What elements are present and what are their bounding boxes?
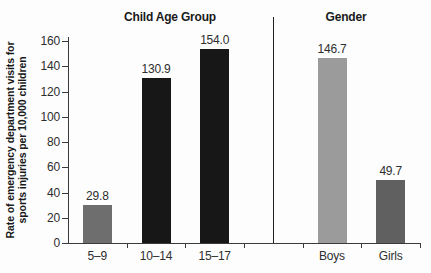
bar-girls bbox=[376, 180, 405, 243]
y-axis-title-line-1: Rate of emergency department visits for bbox=[4, 34, 16, 246]
y-tick-label: 120 bbox=[28, 85, 60, 99]
y-axis-tick bbox=[62, 142, 68, 143]
x-tick-label-boys: Boys bbox=[302, 249, 362, 263]
plot-area: Child Age Group Gender Rate of emergency… bbox=[0, 0, 431, 273]
bar-5-9 bbox=[83, 205, 112, 243]
x-axis-tick bbox=[244, 243, 245, 248]
x-axis-tick bbox=[185, 243, 186, 248]
bar-value-label-15-17: 154.0 bbox=[185, 33, 245, 47]
x-tick-label-15-17: 15–17 bbox=[185, 249, 245, 263]
y-axis-tick bbox=[62, 41, 68, 42]
bar-10-14 bbox=[142, 78, 171, 243]
y-axis-tick bbox=[62, 167, 68, 168]
bar-15-17 bbox=[200, 49, 229, 243]
y-axis-title: Rate of emergency department visits for … bbox=[4, 34, 30, 246]
y-tick-label: 20 bbox=[28, 211, 60, 225]
x-axis-tick bbox=[303, 243, 304, 248]
x-axis-tick bbox=[361, 243, 362, 248]
x-axis-tick bbox=[420, 243, 421, 248]
group-header-child-age: Child Age Group bbox=[100, 10, 240, 24]
bar-boys bbox=[318, 58, 347, 243]
y-axis-tick bbox=[62, 243, 68, 244]
y-tick-label: 60 bbox=[28, 160, 60, 174]
y-tick-label: 140 bbox=[28, 59, 60, 73]
y-axis-tick bbox=[62, 117, 68, 118]
group-separator-line bbox=[273, 17, 274, 243]
bar-chart: Child Age Group Gender Rate of emergency… bbox=[0, 0, 431, 273]
x-tick-label-10-14: 10–14 bbox=[126, 249, 186, 263]
bar-value-label-10-14: 130.9 bbox=[126, 62, 186, 76]
y-tick-label: 80 bbox=[28, 135, 60, 149]
y-tick-label: 40 bbox=[28, 186, 60, 200]
y-axis-tick bbox=[62, 92, 68, 93]
x-axis-tick bbox=[127, 243, 128, 248]
group-header-gender: Gender bbox=[296, 10, 396, 24]
y-tick-label: 100 bbox=[28, 110, 60, 124]
bar-value-label-boys: 146.7 bbox=[302, 42, 362, 56]
x-tick-label-5-9: 5–9 bbox=[67, 249, 127, 263]
x-tick-label-girls: Girls bbox=[361, 249, 421, 263]
bar-value-label-5-9: 29.8 bbox=[67, 189, 127, 203]
bar-value-label-girls: 49.7 bbox=[361, 164, 421, 178]
y-axis-tick bbox=[62, 66, 68, 67]
y-axis-tick bbox=[62, 218, 68, 219]
y-tick-label: 160 bbox=[28, 34, 60, 48]
y-axis-title-line-2: sports injuries per 10,000 children bbox=[16, 34, 28, 246]
y-axis-line bbox=[68, 37, 69, 243]
y-tick-label: 0 bbox=[28, 236, 60, 250]
